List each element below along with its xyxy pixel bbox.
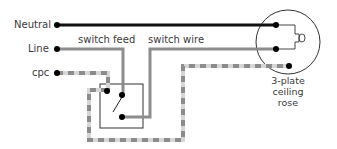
switch-common-terminal bbox=[119, 92, 125, 98]
switch-wire-label: switch wire bbox=[148, 34, 204, 46]
ceiling-rose-label: 3-plate ceiling rose bbox=[258, 75, 318, 108]
switch-feed-label: switch feed bbox=[78, 34, 135, 46]
switch-wire bbox=[123, 49, 276, 117]
rose-neutral-terminal bbox=[273, 22, 279, 28]
switch-earth-terminal bbox=[104, 88, 110, 94]
rose-label-line1: 3-plate bbox=[258, 75, 318, 86]
cpc-label: cpc bbox=[32, 67, 49, 79]
neutral-label: Neutral bbox=[14, 19, 51, 31]
rose-label-line2: ceiling bbox=[258, 86, 318, 97]
rose-switched-terminal bbox=[273, 46, 279, 52]
lamp-loop-icon bbox=[299, 34, 305, 42]
line-terminal bbox=[54, 46, 60, 52]
wiring-diagram: Neutral Line cpc switch feed switch wire… bbox=[0, 0, 337, 149]
switch-lever bbox=[113, 97, 122, 112]
cpc-terminal bbox=[54, 70, 60, 76]
switch-l1-terminal bbox=[119, 114, 125, 120]
rose-earth-terminal bbox=[286, 63, 292, 69]
rose-label-line3: rose bbox=[258, 97, 318, 108]
neutral-terminal bbox=[54, 22, 60, 28]
line-label: Line bbox=[28, 43, 49, 55]
rose-terminal-block bbox=[276, 25, 299, 49]
